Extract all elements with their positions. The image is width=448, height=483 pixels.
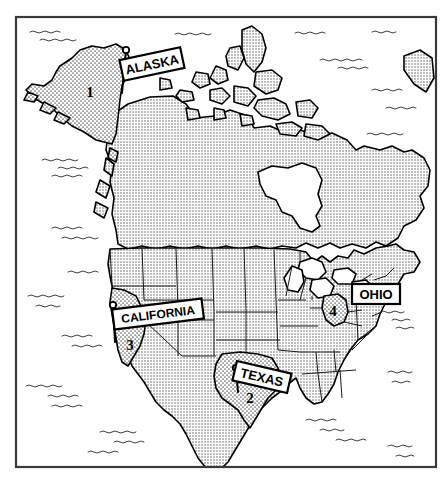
marker-number-4: 4	[329, 303, 337, 319]
callout-ohio[interactable]: OHIO	[352, 284, 400, 304]
marker-number-3: 3	[126, 337, 134, 353]
north-america-map: ALASKA CALIFORNIA TEXAS OHIO	[0, 0, 448, 483]
marker-number-2: 2	[246, 390, 254, 406]
map-container: ALASKA CALIFORNIA TEXAS OHIO	[0, 0, 448, 483]
marker-number-1: 1	[86, 84, 94, 100]
alaska-pin-dot	[123, 47, 129, 53]
california-pin-dot	[110, 302, 116, 308]
ohio-label-text: OHIO	[359, 287, 392, 302]
